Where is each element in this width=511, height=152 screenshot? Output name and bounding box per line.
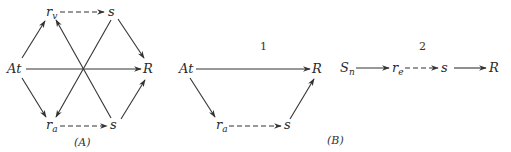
diagram-2-label: 2 (419, 40, 426, 53)
node-r: R (142, 61, 153, 76)
edge-s-to-r (118, 19, 144, 58)
node-s-bottom: s (110, 117, 117, 132)
panel-b-diagram-2: 2 Sn re s R (340, 40, 499, 77)
node-r: R (311, 61, 322, 76)
panel-a: rv s At R ra s (A) (6, 4, 153, 149)
node-s: s (284, 117, 291, 132)
node-s: s (441, 60, 448, 75)
node-at: At (178, 61, 194, 76)
edge-s-to-r-bottom (121, 80, 145, 119)
node-re: re (392, 60, 404, 77)
node-r: R (488, 60, 499, 75)
edge-at-to-ra (190, 78, 215, 117)
node-ra: ra (216, 117, 228, 134)
node-sn: Sn (340, 60, 355, 77)
edge-at-to-rv (22, 21, 45, 58)
edge-at-to-ra (22, 78, 46, 117)
node-ra: ra (46, 117, 58, 134)
figure: rv s At R ra s (A) 1 At R ra s (B) 2 Sn … (0, 0, 511, 152)
node-rv: rv (46, 4, 57, 21)
node-s-top: s (108, 4, 115, 19)
diagram-1-label: 1 (260, 40, 267, 53)
panel-b-diagram-1: 1 At R ra s (178, 40, 322, 134)
caption-b: (B) (327, 134, 344, 147)
edge-s-to-r (290, 79, 314, 119)
caption-a: (A) (74, 136, 91, 149)
node-at: At (6, 61, 22, 76)
